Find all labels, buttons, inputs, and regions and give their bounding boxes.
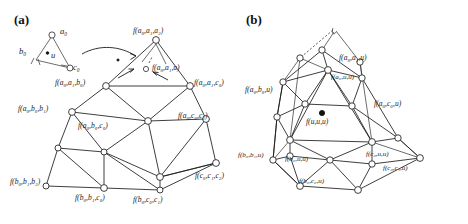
mapping-arrow — [82, 47, 136, 61]
panel-b-label-c-uu: f(c₀,u,u) — [366, 151, 389, 158]
panel-a-node-bottom-left-corner — [43, 183, 49, 189]
panel-a-node-bottom-right — [213, 160, 220, 167]
panel-b-label-b-c-u: f(b₀,c₀,u) — [299, 178, 324, 185]
inset-vertex-a0 — [49, 32, 55, 38]
panel-a-node-bottom-left — [101, 185, 108, 192]
inset-label-u: u — [51, 51, 55, 60]
panel-a-label-bottom-left: f(b₀,b₁,c₀) — [75, 194, 105, 202]
figure-root: (a) a₀ b₀ c₀ u f(a₀,a₁,a₂) f(a₀,a₁,u) f(… — [0, 0, 468, 224]
panel-a-node-bottom-center — [157, 174, 164, 181]
panel-b-node-ac-u — [359, 75, 365, 81]
panel-b-node-bb-u — [270, 157, 276, 163]
panel-a-label-left-upper: f(a₀,a₁,b₀) — [55, 79, 85, 87]
panel-b-node-mid-left — [302, 101, 308, 107]
panel-b-label-b-b-u: f(b₀,b₁,u) — [238, 152, 263, 159]
inset-label-a0: a₀ — [60, 27, 67, 36]
panel-a-node-left-mid — [69, 109, 76, 116]
inset-point-u — [46, 52, 49, 55]
panel-a-label-interior-u: f(a₀,a₁,u) — [152, 64, 180, 72]
panel-b-letter: (b) — [246, 12, 262, 28]
panel-a-node-bottom-mid — [157, 187, 163, 193]
panel-b-node-uuu — [319, 110, 324, 115]
panel-a-label-right-mid: f(a₀,c₀,c₁) — [178, 112, 207, 120]
panel-a-node-right-upper — [187, 83, 194, 90]
panel-b-label-a-b-u: f(a₀,b₀,u) — [245, 86, 273, 94]
panel-b-node-left — [274, 114, 280, 120]
panel-a-node-inner-lower — [101, 149, 107, 155]
panel-b-node-bottom-right — [355, 187, 362, 194]
panel-b-label-a-uu: f(a₀,u,u) — [331, 74, 354, 81]
panel-a-letter: (a) — [14, 12, 29, 28]
panel-a-label-right-upper: f(a₀,a₁,c₀) — [194, 79, 224, 87]
panel-a-node-u-image — [143, 66, 148, 71]
panel-b-label-b-uu: f(b₀,u,u) — [285, 156, 308, 163]
panel-b-node-apex — [319, 47, 325, 53]
inset-label-b0: b₀ — [19, 47, 26, 56]
panel-a-label-center: f(a₀,b₀,c₀) — [78, 122, 108, 130]
panel-a-node-top — [153, 37, 160, 44]
panel-b-label-apex: f(a₀,a₁,u) — [339, 54, 367, 62]
panel-a-label-left-bottom: f(b₀,b₁,b₂) — [10, 178, 40, 186]
panel-b-node-lower-center — [327, 157, 333, 163]
panel-b-label-center-uuu: f(u,u,u) — [306, 118, 328, 126]
panel-a-label-left-mid: f(a₀,b₀,b₁) — [18, 105, 48, 113]
panel-b-label-c-c-u: f(c₀,c₁,u) — [383, 165, 408, 172]
inset-label-c0: c₀ — [73, 63, 80, 72]
figure-canvas — [0, 0, 468, 224]
panel-a-label-bottom-center: f(b₀,c₀,c₁) — [133, 196, 162, 204]
panel-b-node-mid-right — [349, 103, 355, 109]
panel-b-label-a-c-u: f(a₀,c₀,u) — [374, 100, 401, 108]
panel-b-node-b-uu — [287, 137, 294, 144]
panel-b-node-far-right — [417, 155, 424, 162]
panel-b-node-right — [395, 135, 401, 141]
panel-a-node-left-upper — [103, 83, 110, 90]
panel-b-node-apex-left — [297, 55, 303, 61]
panel-b-node-ab-u — [280, 79, 286, 85]
panel-b-node-c-uu — [369, 139, 376, 146]
panel-a-node-left-lower — [55, 145, 61, 151]
panel-a-label-top: f(a₀,a₁,a₂) — [133, 27, 163, 35]
panel-b-node-cc-u — [369, 161, 375, 167]
panel-a-node-center — [145, 118, 152, 125]
panel-a-label-bottom-right: f(c₀,c₁,c₂) — [195, 172, 224, 180]
